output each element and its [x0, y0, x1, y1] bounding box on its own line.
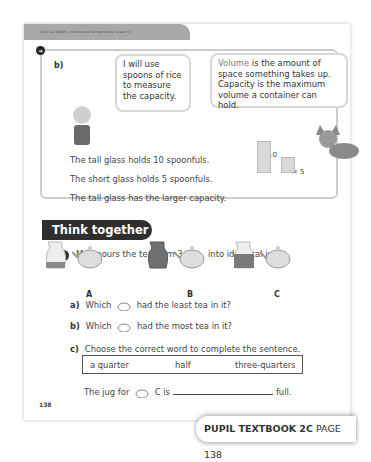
book-title: PUPIL TEXTBOOK 2C [204, 423, 313, 434]
teapot-icon [114, 301, 134, 311]
sub-question-a: a)Which had the least tea in it? [70, 300, 231, 311]
teapot-c-icon [260, 242, 296, 270]
facts-list: The tall glass holds 10 spoonfuls. The s… [70, 155, 226, 212]
teapot-icon [114, 322, 134, 332]
short-glass-icon [281, 157, 295, 173]
jug-c-icon [232, 240, 260, 270]
jug-b-icon [146, 240, 174, 270]
teapot-b-icon [174, 242, 210, 270]
textbook-page: Unit 14: Weight, volume and temperature,… [24, 24, 350, 420]
speech-bubble-fox: Volume is the amount of space something … [210, 53, 348, 108]
volume-keyword: Volume [218, 58, 249, 68]
fact-line: The tall glass holds 10 spoonfuls. [70, 155, 226, 174]
fact-line: The tall glass has the larger capacity. [70, 193, 226, 212]
answer-blank[interactable] [173, 394, 273, 395]
part-label: b) [54, 61, 63, 70]
speech-bubble-boy: I will use spoons of rice to measure the… [115, 54, 191, 112]
footer-label: PUPIL TEXTBOOK 2C PAGE 138 [196, 416, 356, 442]
tall-glass-icon [257, 141, 271, 173]
boy-character-icon [66, 103, 96, 147]
teapot-icon [132, 388, 152, 398]
word-option: half [175, 360, 191, 370]
word-option: three-quarters [235, 360, 296, 370]
sub-question-b: b)Which had the most tea in it? [70, 321, 232, 332]
page-number: 138 [39, 401, 52, 408]
think-together-heading: Think together [42, 220, 152, 240]
example-panel-b: ➔ b) I will use spoons of rice to measur… [40, 49, 338, 199]
figure-label-c: C [274, 290, 280, 299]
teapot-a-icon [72, 242, 108, 270]
word-choice-box: a quarter half three-quarters [82, 355, 303, 374]
jug-a-icon [44, 240, 72, 270]
arrow-icon: ➔ [36, 46, 45, 55]
figure-label-b: B [187, 290, 193, 299]
word-option: a quarter [90, 360, 129, 370]
unit-header: Unit 14: Weight, volume and temperature,… [24, 24, 190, 40]
fill-in-sentence: The jug for C isfull. [84, 387, 292, 398]
fox-character-icon [314, 121, 360, 161]
figure-label-a: A [86, 290, 92, 299]
sub-question-c: c)Choose the correct word to complete th… [70, 344, 300, 354]
fact-line: The short glass holds 5 spoonfuls. [70, 174, 226, 193]
